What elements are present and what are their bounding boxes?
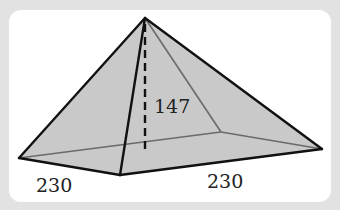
base-right-label: 230 [207, 170, 243, 192]
height-label: 147 [154, 95, 190, 117]
pyramid-diagram: 147 230 230 [0, 0, 340, 210]
base-left-label: 230 [36, 174, 72, 196]
face-back [19, 18, 322, 158]
